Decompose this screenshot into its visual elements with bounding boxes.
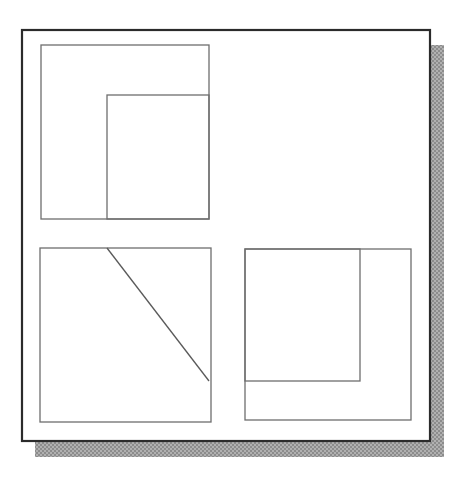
figure-canvas: nested-rectangles-diagram Scanned line d… xyxy=(0,0,466,486)
nested-rectangles-figure: nested-rectangles-diagram Scanned line d… xyxy=(0,0,466,486)
outer-frame xyxy=(22,30,430,441)
